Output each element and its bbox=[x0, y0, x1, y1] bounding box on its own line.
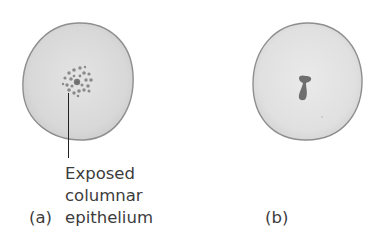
panel-b-cervix bbox=[253, 23, 362, 140]
annotation-line-3: epithelium bbox=[65, 207, 153, 228]
panel-a-cervix bbox=[23, 23, 133, 158]
diagram-canvas bbox=[0, 0, 374, 252]
annotation-line-1: Exposed bbox=[65, 163, 135, 184]
panel-b-label: (b) bbox=[265, 207, 288, 228]
panel-a-label: (a) bbox=[29, 207, 52, 228]
annotation-line-2: columnar bbox=[65, 185, 143, 206]
